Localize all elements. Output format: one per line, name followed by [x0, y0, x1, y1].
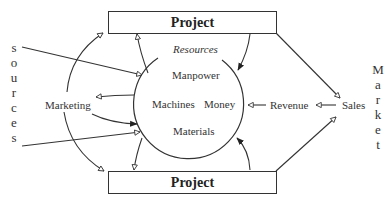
- marketing-to-circle: [92, 114, 137, 124]
- bottom-project-to-circle: [237, 138, 250, 170]
- market-vertical-label: M a r k e t: [372, 62, 384, 152]
- bottom-project-to-sales: [276, 117, 336, 171]
- project-box-top-label: Project: [171, 15, 214, 31]
- market-letter: r: [372, 92, 384, 107]
- sources-letter: s: [8, 40, 20, 55]
- resource-machines: Machines: [152, 99, 195, 110]
- market-letter: t: [372, 137, 384, 152]
- sources-letter: r: [8, 85, 20, 100]
- marketing-label: Marketing: [45, 100, 91, 111]
- sources-line-top: [22, 47, 142, 75]
- marketing-arc-up: [67, 33, 103, 92]
- resource-materials: Materials: [173, 126, 215, 137]
- resources-title: Resources: [173, 44, 218, 55]
- circle-to-marketing: [96, 95, 134, 97]
- project-box-bottom: Project: [108, 171, 277, 194]
- sales-label: Sales: [342, 100, 365, 111]
- circle-to-bottom-project: [134, 138, 142, 170]
- top-project-to-sales: [276, 33, 340, 98]
- project-box-bottom-label: Project: [171, 175, 214, 191]
- circle-to-top-project: [137, 34, 148, 73]
- market-letter: a: [372, 77, 384, 92]
- revenue-label: Revenue: [270, 100, 308, 111]
- sources-line-bottom: [22, 132, 140, 146]
- market-letter: M: [372, 62, 384, 77]
- top-project-to-circle: [238, 34, 250, 70]
- sources-letter: c: [8, 100, 20, 115]
- sources-vertical-label: s o u r c e s: [8, 40, 20, 145]
- marketing-arc-down: [64, 112, 104, 171]
- resource-manpower: Manpower: [172, 70, 220, 81]
- sources-letter: s: [8, 130, 20, 145]
- market-letter: e: [372, 122, 384, 137]
- sources-letter: o: [8, 55, 20, 70]
- sources-letter: e: [8, 115, 20, 130]
- sources-letter: u: [8, 70, 20, 85]
- project-box-top: Project: [108, 11, 277, 34]
- market-letter: k: [372, 107, 384, 122]
- resource-money: Money: [204, 99, 235, 110]
